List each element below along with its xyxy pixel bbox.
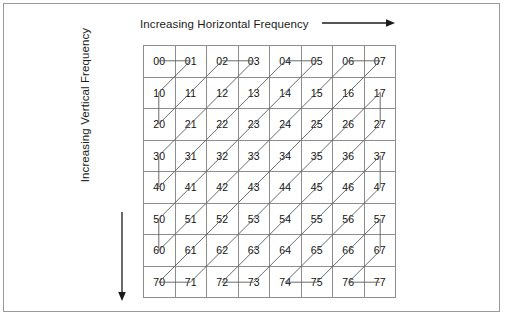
vertical-axis-label: Increasing Vertical Frequency <box>75 25 95 185</box>
matrix-cell-label: 43 <box>239 181 270 193</box>
matrix-cell: 74 <box>270 267 302 299</box>
matrix-grid: 0001020304050607101112131415161720212223… <box>143 45 396 298</box>
matrix-cell: 72 <box>207 267 239 299</box>
matrix-cell-label: 15 <box>302 87 333 99</box>
matrix-cell-label: 22 <box>207 118 238 130</box>
matrix-cell-label: 06 <box>333 55 364 67</box>
matrix-cell-label: 75 <box>302 276 333 288</box>
matrix-cell: 67 <box>365 235 397 267</box>
matrix-cell-label: 41 <box>176 181 207 193</box>
matrix-cell-label: 52 <box>207 213 238 225</box>
matrix-cell-label: 36 <box>333 150 364 162</box>
matrix-cell: 35 <box>302 141 334 173</box>
matrix-cell: 00 <box>144 46 176 78</box>
matrix-cell-label: 04 <box>270 55 301 67</box>
matrix-cell-label: 67 <box>365 244 396 256</box>
matrix-cell: 01 <box>176 46 208 78</box>
matrix-cell-label: 24 <box>270 118 301 130</box>
coefficient-matrix: 0001020304050607101112131415161720212223… <box>143 45 396 298</box>
matrix-cell-label: 23 <box>239 118 270 130</box>
matrix-cell: 24 <box>270 109 302 141</box>
matrix-cell-label: 51 <box>176 213 207 225</box>
matrix-cell: 42 <box>207 172 239 204</box>
matrix-cell-label: 05 <box>302 55 333 67</box>
matrix-cell-label: 40 <box>144 181 175 193</box>
matrix-cell-label: 44 <box>270 181 301 193</box>
matrix-cell-label: 01 <box>176 55 207 67</box>
matrix-cell-label: 17 <box>365 87 396 99</box>
figure-root: Increasing Horizontal Frequency Increasi… <box>0 0 505 321</box>
matrix-cell-label: 16 <box>333 87 364 99</box>
matrix-cell: 06 <box>333 46 365 78</box>
matrix-cell-label: 35 <box>302 150 333 162</box>
matrix-cell: 05 <box>302 46 334 78</box>
matrix-cell-label: 25 <box>302 118 333 130</box>
matrix-cell-label: 32 <box>207 150 238 162</box>
matrix-cell: 61 <box>176 235 208 267</box>
matrix-cell-label: 46 <box>333 181 364 193</box>
matrix-cell: 46 <box>333 172 365 204</box>
matrix-cell: 21 <box>176 109 208 141</box>
matrix-cell: 31 <box>176 141 208 173</box>
matrix-cell: 64 <box>270 235 302 267</box>
matrix-cell: 73 <box>239 267 271 299</box>
matrix-cell: 15 <box>302 78 334 110</box>
matrix-cell: 22 <box>207 109 239 141</box>
matrix-cell: 60 <box>144 235 176 267</box>
arrow-down-icon <box>116 212 128 302</box>
matrix-cell-label: 53 <box>239 213 270 225</box>
matrix-cell-label: 63 <box>239 244 270 256</box>
matrix-cell-label: 65 <box>302 244 333 256</box>
matrix-cell: 54 <box>270 204 302 236</box>
matrix-cell-label: 20 <box>144 118 175 130</box>
matrix-cell-label: 21 <box>176 118 207 130</box>
matrix-cell-label: 73 <box>239 276 270 288</box>
matrix-cell: 17 <box>365 78 397 110</box>
matrix-cell-label: 61 <box>176 244 207 256</box>
matrix-cell-label: 11 <box>176 87 207 99</box>
matrix-cell: 07 <box>365 46 397 78</box>
matrix-cell: 32 <box>207 141 239 173</box>
matrix-cell-label: 42 <box>207 181 238 193</box>
matrix-cell-label: 02 <box>207 55 238 67</box>
matrix-cell: 33 <box>239 141 271 173</box>
matrix-cell: 02 <box>207 46 239 78</box>
matrix-cell-label: 12 <box>207 87 238 99</box>
matrix-cell: 14 <box>270 78 302 110</box>
arrow-right-icon <box>322 17 396 29</box>
matrix-cell-label: 07 <box>365 55 396 67</box>
matrix-cell: 71 <box>176 267 208 299</box>
matrix-cell-label: 74 <box>270 276 301 288</box>
vertical-axis-text: Increasing Vertical Frequency <box>79 28 91 182</box>
matrix-cell-label: 34 <box>270 150 301 162</box>
matrix-cell: 47 <box>365 172 397 204</box>
matrix-cell: 20 <box>144 109 176 141</box>
matrix-cell-label: 66 <box>333 244 364 256</box>
matrix-cell: 10 <box>144 78 176 110</box>
matrix-cell-label: 37 <box>365 150 396 162</box>
matrix-cell: 03 <box>239 46 271 78</box>
matrix-cell: 13 <box>239 78 271 110</box>
matrix-cell-label: 70 <box>144 276 175 288</box>
matrix-cell: 36 <box>333 141 365 173</box>
horizontal-axis-label: Increasing Horizontal Frequency <box>140 14 309 34</box>
matrix-cell: 41 <box>176 172 208 204</box>
matrix-cell: 26 <box>333 109 365 141</box>
matrix-cell: 76 <box>333 267 365 299</box>
matrix-cell: 45 <box>302 172 334 204</box>
matrix-cell-label: 57 <box>365 213 396 225</box>
matrix-cell-label: 62 <box>207 244 238 256</box>
matrix-cell: 27 <box>365 109 397 141</box>
matrix-cell-label: 71 <box>176 276 207 288</box>
matrix-cell: 25 <box>302 109 334 141</box>
matrix-cell-label: 00 <box>144 55 175 67</box>
matrix-cell-label: 50 <box>144 213 175 225</box>
matrix-cell-label: 72 <box>207 276 238 288</box>
matrix-cell-label: 60 <box>144 244 175 256</box>
matrix-cell-label: 55 <box>302 213 333 225</box>
matrix-cell: 53 <box>239 204 271 236</box>
matrix-cell: 56 <box>333 204 365 236</box>
matrix-cell-label: 31 <box>176 150 207 162</box>
matrix-cell-label: 56 <box>333 213 364 225</box>
matrix-cell: 50 <box>144 204 176 236</box>
